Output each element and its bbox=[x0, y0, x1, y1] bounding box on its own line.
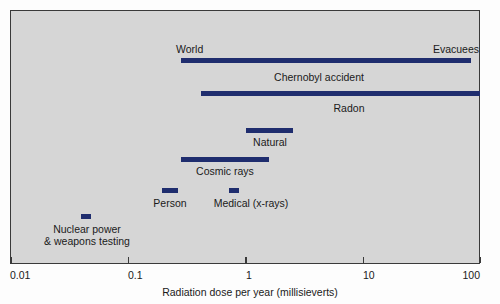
x-axis-ticklabel-0: 0.01 bbox=[10, 269, 30, 281]
bar-label-evacuees: Evacuees bbox=[433, 43, 479, 55]
bar-person bbox=[162, 188, 178, 193]
x-axis-ticklabel-3: 10 bbox=[363, 269, 375, 281]
x-axis-ticklabel-1: 0.1 bbox=[128, 269, 143, 281]
x-axis-ticklabel-2: 1 bbox=[246, 269, 252, 281]
x-axis-tick-0 bbox=[10, 257, 12, 263]
bar-nuclear-power bbox=[81, 214, 91, 219]
bar-natural bbox=[246, 128, 293, 133]
chart-container: World Evacuees Chernobyl accident Radon … bbox=[0, 0, 500, 304]
x-axis-tick-2 bbox=[245, 257, 247, 263]
x-axis-ticklabel-4: 100 bbox=[462, 269, 480, 281]
bar-label-cosmic-rays: Cosmic rays bbox=[196, 165, 254, 177]
x-axis-tick-4 bbox=[479, 257, 481, 263]
bar-world bbox=[181, 58, 471, 63]
bar-label-medical-xrays: Medical (x-rays) bbox=[214, 197, 289, 209]
bar-label-person: Person bbox=[153, 197, 186, 209]
bar-label-world: World bbox=[176, 43, 203, 55]
bar-chernobyl-radon bbox=[201, 91, 480, 96]
x-axis-title: Radiation dose per year (millisieverts) bbox=[0, 286, 500, 298]
bar-medical-xrays bbox=[229, 188, 239, 193]
x-axis: 0.01 0.1 1 10 100 bbox=[10, 263, 480, 264]
bar-label-radon: Radon bbox=[334, 102, 365, 114]
bar-label-chernobyl: Chernobyl accident bbox=[274, 71, 364, 83]
plot-area: World Evacuees Chernobyl accident Radon … bbox=[10, 10, 480, 264]
bar-label-nuclear-power: Nuclear power bbox=[53, 223, 121, 235]
x-axis-tick-1 bbox=[128, 257, 130, 263]
x-axis-tick-3 bbox=[363, 257, 365, 263]
bar-cosmic-rays bbox=[181, 157, 269, 162]
bar-label-nuclear-power-line2: & weapons testing bbox=[44, 235, 130, 247]
bar-label-natural: Natural bbox=[253, 136, 287, 148]
